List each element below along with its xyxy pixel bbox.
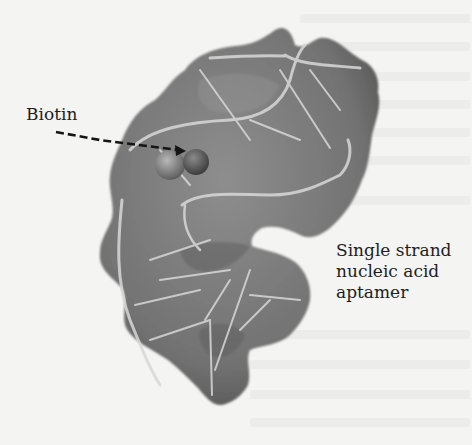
biotin-label: Biotin <box>26 104 77 125</box>
molecular-surface <box>0 0 472 445</box>
aptamer-label-line-1: Single strand <box>336 240 472 261</box>
aptamer-label: Single strand nucleic acid aptamer <box>336 240 472 303</box>
aptamer-figure: Biotin Single strand nucleic acid aptame… <box>0 0 472 445</box>
aptamer-label-line-3: aptamer <box>336 282 472 303</box>
aptamer-label-line-2: nucleic acid <box>336 261 472 282</box>
